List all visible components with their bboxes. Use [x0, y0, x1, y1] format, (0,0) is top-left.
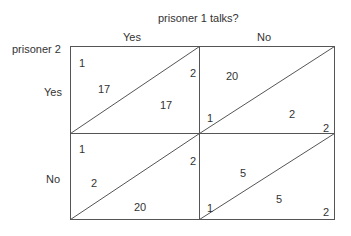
cell-yes-no-corner-p2: 2: [323, 122, 329, 134]
cell-no-yes-lower: 20: [134, 201, 146, 213]
cell-yes-yes-corner-p2: 2: [190, 67, 196, 79]
cell-yes-yes-upper: 17: [98, 83, 110, 95]
cell-yes-no-lower: 2: [289, 108, 295, 120]
row-header-no: No: [46, 173, 60, 185]
payoff-grid: [0, 0, 351, 236]
cell-yes-no-upper: 20: [226, 70, 238, 82]
row-header-yes: Yes: [44, 86, 62, 98]
title: prisoner 1 talks?: [158, 12, 239, 24]
cell-no-no-corner-p1: 1: [207, 202, 213, 214]
diagonal-yes-yes: [71, 47, 200, 134]
column-header-yes: Yes: [123, 31, 141, 43]
diagonal-yes-no: [200, 47, 335, 134]
cell-no-no-corner-p2: 2: [323, 206, 329, 218]
diagonal-no-no: [200, 134, 335, 220]
cell-no-no-upper: 5: [240, 167, 246, 179]
cell-yes-yes-lower: 17: [160, 99, 172, 111]
cell-yes-yes-corner-p1: 1: [79, 57, 85, 69]
cell-no-yes-corner-p2: 2: [190, 155, 196, 167]
cell-no-yes-upper: 2: [91, 177, 97, 189]
cell-no-no-lower: 5: [276, 193, 282, 205]
row-player-label: prisoner 2: [12, 43, 61, 55]
cell-no-yes-corner-p1: 1: [79, 143, 85, 155]
cell-yes-no-corner-p1: 1: [207, 112, 213, 124]
column-header-no: No: [257, 31, 271, 43]
